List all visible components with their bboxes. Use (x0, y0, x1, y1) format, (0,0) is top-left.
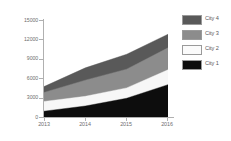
legend-item-city-4[interactable]: City 4 (182, 14, 231, 29)
chart-legend: City 4 City 3 City 2 City 1 (182, 14, 231, 74)
x-axis-tick-label: 2016 (150, 122, 184, 127)
y-axis-tick-label: 12000 (6, 37, 38, 42)
legend-label-city-3: City 3 (205, 31, 219, 37)
legend-swatch-city-4 (182, 15, 202, 25)
y-axis-tick-label: 6000 (6, 76, 38, 81)
y-axis-tick-label: 9000 (6, 56, 38, 61)
legend-label-city-2: City 2 (205, 46, 219, 52)
x-axis-line (43, 117, 174, 118)
stacked-area-svg (44, 20, 168, 117)
plot-area (44, 20, 168, 117)
figure-caption (0, 132, 231, 141)
x-axis-tick-label: 2014 (68, 122, 102, 127)
legend-item-city-2[interactable]: City 2 (182, 44, 231, 59)
x-axis-tick-label: 2013 (27, 122, 61, 127)
y-axis-tick-label: 0 (6, 115, 38, 120)
legend-item-city-1[interactable]: City 1 (182, 59, 231, 74)
legend-swatch-city-3 (182, 30, 202, 40)
x-axis-tick-label: 2015 (109, 122, 143, 127)
legend-swatch-city-2 (182, 45, 202, 55)
y-axis-tick-label: 3000 (6, 95, 38, 100)
legend-item-city-3[interactable]: City 3 (182, 29, 231, 44)
chart-figure: 15000 12000 9000 6000 3000 0 2013 2014 2… (0, 0, 231, 141)
y-axis-tick-label: 15000 (6, 18, 38, 23)
legend-swatch-city-1 (182, 60, 202, 70)
legend-label-city-1: City 1 (205, 61, 219, 67)
legend-label-city-4: City 4 (205, 16, 219, 22)
